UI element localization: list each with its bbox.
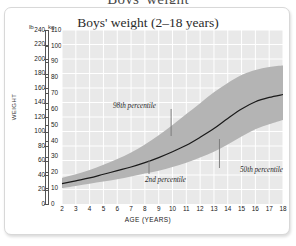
annotation-50th-percentile: 50th percentile (240, 166, 283, 174)
growth-chart-card: Boys' weight (2–18 years) lb kg WEIGHT A… (4, 7, 290, 235)
annotation-2nd-percentile: 2nd percentile (145, 176, 186, 184)
growth-chart-plot (5, 8, 290, 235)
clipped-heading-text: Boys' weight (0, 0, 296, 4)
annotation-98th-percentile: 98th percentile (113, 102, 156, 110)
